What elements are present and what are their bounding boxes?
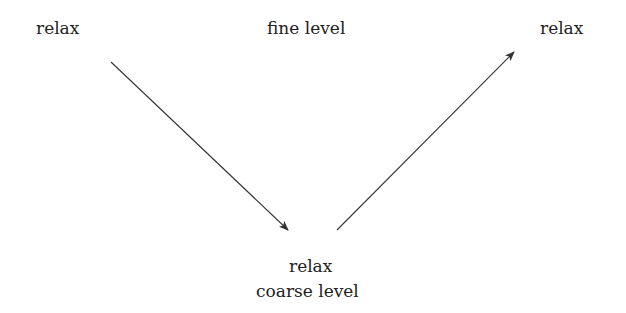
v-cycle-diagram: relax fine level relax relax coarse leve… <box>0 0 626 313</box>
restrict-arrow <box>111 62 288 230</box>
label-relax-right: relax <box>540 20 583 37</box>
label-relax-bottom: relax <box>289 258 332 275</box>
prolong-arrow <box>337 52 514 230</box>
label-fine-level: fine level <box>267 20 345 37</box>
label-relax-left: relax <box>36 20 79 37</box>
label-coarse-level: coarse level <box>256 283 359 300</box>
